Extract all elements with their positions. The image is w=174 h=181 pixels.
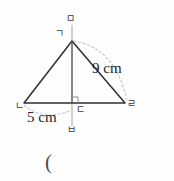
vertex-label-giyeok: ㄱ [55, 29, 64, 39]
vertex-label-mieum: ㅁ [66, 14, 75, 24]
vertex-label-bieup: ㅂ [67, 125, 76, 135]
triangle-diagram-svg [0, 0, 174, 181]
geometry-figure: ㅁ ㄱ ㄴ ㄷ ㄹ ㅂ 9 cm 5 cm ( [0, 0, 174, 181]
dimension-label-slant: 9 cm [92, 61, 122, 76]
right-angle-mark [72, 97, 78, 103]
vertex-label-rieul: ㄹ [127, 99, 136, 109]
footer-parenthesis: ( [45, 152, 52, 173]
dimension-label-half-base: 5 cm [27, 110, 57, 125]
vertex-label-nieun: ㄴ [15, 101, 24, 111]
vertex-label-digeut: ㄷ [76, 105, 85, 115]
